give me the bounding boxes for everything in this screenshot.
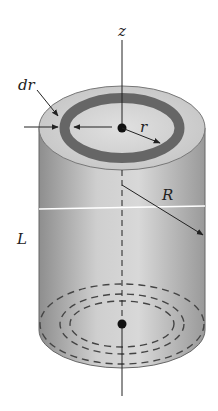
z-axis-label: z xyxy=(117,22,126,40)
dr-label: dr xyxy=(18,76,36,94)
cylinder-diagram: z dr r R L xyxy=(0,0,218,411)
L-label: L xyxy=(16,230,27,248)
r-label: r xyxy=(140,118,148,136)
bottom-center-dot xyxy=(118,320,127,329)
R-label: R xyxy=(161,186,173,204)
